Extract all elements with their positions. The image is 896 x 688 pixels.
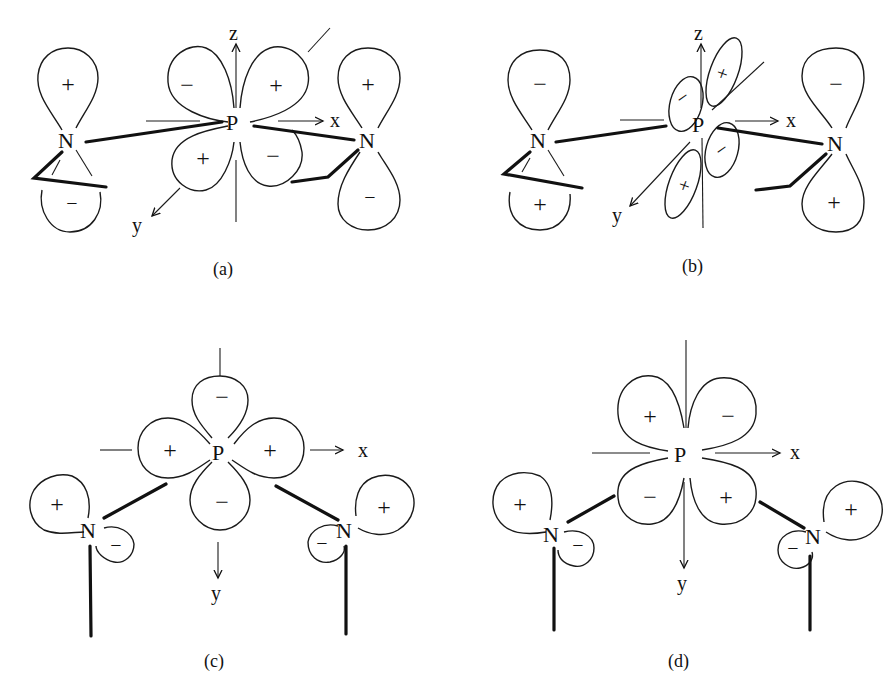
orbital-diagram: z x y − + + − P + − N + − N	[0, 0, 896, 688]
caption-b: (b)	[682, 256, 703, 277]
atom-p: P	[226, 110, 238, 135]
sign: −	[710, 137, 732, 161]
atom-p: P	[674, 442, 686, 467]
sign: +	[533, 191, 547, 217]
caption-a: (a)	[213, 259, 233, 280]
sign: +	[827, 189, 841, 215]
atom-n-left: N	[80, 518, 96, 543]
n-left-substituent	[90, 546, 91, 636]
y-axis-label: y	[132, 214, 142, 237]
bond-p-n-right	[276, 486, 338, 520]
x-axis-label: x	[786, 109, 796, 131]
ring-bond	[756, 154, 826, 190]
caption-c: (c)	[204, 651, 224, 672]
diagonal-axis	[308, 28, 330, 52]
p-lobe-upper-left	[168, 47, 234, 122]
atom-n-left: N	[543, 522, 559, 547]
caption-d: (d)	[668, 651, 689, 672]
z-axis-label: z	[229, 22, 238, 44]
ring-bond-thin	[548, 150, 564, 176]
bond-p-n-left	[104, 484, 166, 518]
sign: −	[215, 489, 229, 515]
atom-n-right: N	[827, 131, 843, 156]
y-axis-label: y	[677, 572, 687, 595]
z-axis-label: z	[694, 22, 703, 44]
y-axis-label: y	[211, 582, 221, 605]
ring-bond-thin	[522, 158, 530, 172]
sign: +	[196, 145, 210, 171]
y-axis	[152, 188, 180, 216]
panel-d: x y + − − + P + − N + − N (d)	[493, 340, 882, 672]
x-axis-label: x	[358, 439, 368, 461]
sign: −	[721, 403, 735, 429]
atom-n-right: N	[336, 518, 352, 543]
sign: −	[533, 71, 547, 97]
sign: −	[266, 143, 280, 169]
sign: +	[163, 437, 177, 463]
sign: +	[50, 491, 64, 517]
sign: −	[643, 484, 657, 510]
sign: −	[829, 71, 843, 97]
bond-p-n-right	[718, 128, 822, 144]
sign: +	[675, 173, 693, 198]
panel-a: z x y − + + − P + − N + − N	[34, 22, 400, 280]
panel-b: z x y + − − + P − + N − + N (b	[504, 22, 864, 277]
sign: −	[110, 534, 121, 556]
sign: +	[377, 494, 391, 520]
sign: +	[263, 437, 277, 463]
sign: +	[61, 71, 75, 97]
z-axis-lower	[702, 138, 703, 228]
sign: +	[713, 61, 731, 86]
sign: −	[787, 537, 798, 559]
atom-n-right: N	[359, 128, 375, 153]
sign: −	[215, 384, 229, 410]
ring-bond-thin	[76, 150, 92, 176]
y-axis-label: y	[612, 204, 622, 227]
panel-c: x y − + + − P + − N + − N (c)	[30, 348, 414, 672]
ring-bond	[504, 152, 582, 188]
atom-n-right: N	[805, 524, 821, 549]
sign: +	[361, 71, 375, 97]
sign: −	[66, 192, 77, 214]
sign: −	[671, 85, 693, 109]
sign: −	[180, 72, 194, 98]
sign: −	[316, 532, 327, 554]
atom-p: P	[212, 440, 224, 465]
sign: −	[572, 534, 583, 556]
sign: +	[844, 496, 858, 522]
y-axis	[630, 142, 690, 206]
sign: −	[364, 186, 375, 208]
bond-p-n-right	[760, 502, 804, 528]
sign: +	[513, 491, 527, 517]
sign: +	[719, 484, 733, 510]
ring-bond	[34, 152, 106, 187]
atom-p: P	[692, 112, 704, 137]
atom-n-left: N	[58, 128, 74, 153]
x-axis-label: x	[330, 109, 340, 131]
sign: +	[643, 403, 657, 429]
atom-n-left: N	[530, 128, 546, 153]
sign: +	[269, 72, 283, 98]
bond-p-n-left	[568, 496, 614, 522]
bond-p-n-left	[556, 126, 666, 142]
x-axis-label: x	[790, 441, 800, 463]
